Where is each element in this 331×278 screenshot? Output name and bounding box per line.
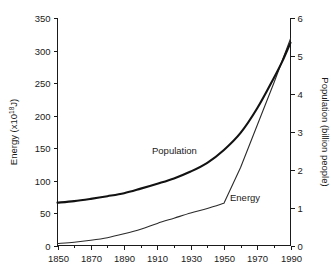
x-tick-label-group: 18501870189019101930195019701990 <box>48 253 302 264</box>
x-tick-label: 1850 <box>48 253 69 264</box>
x-tick-label: 1970 <box>247 253 268 264</box>
chart-plot-area: 050100150200250300350 0123456 1850187018… <box>0 0 331 278</box>
y-left-tick-group <box>54 19 58 247</box>
y-left-tick-label: 350 <box>35 13 51 24</box>
y-left-tick-label: 100 <box>35 176 51 187</box>
y-left-tick-label: 250 <box>35 78 51 89</box>
y-right-tick-label: 1 <box>298 203 303 214</box>
x-tick-label: 1910 <box>147 253 168 264</box>
y-right-axis-title: Population (billion people) <box>320 77 331 186</box>
y-left-axis-title: Energy (x1018J) <box>8 99 20 165</box>
energy-series-line <box>58 39 291 244</box>
y-left-tick-label: 300 <box>35 46 51 57</box>
y-right-axis-title-text: Population (billion people) <box>320 77 331 186</box>
y-right-tick-label: 3 <box>298 127 303 138</box>
y-right-tick-label: 4 <box>298 89 303 100</box>
x-tick-label: 1950 <box>214 253 235 264</box>
x-tick-label: 1890 <box>114 253 135 264</box>
y-left-tick-label-group: 050100150200250300350 <box>35 13 51 252</box>
y-right-tick-label: 2 <box>298 165 303 176</box>
y-left-tick-label: 50 <box>40 208 51 219</box>
y-left-tick-label: 150 <box>35 143 51 154</box>
y-left-tick-label: 0 <box>45 241 50 252</box>
y-left-tick-label: 200 <box>35 111 51 122</box>
x-tick-label: 1990 <box>281 253 302 264</box>
population-series-label: Population <box>152 145 197 156</box>
y-right-tick-label: 5 <box>298 51 303 62</box>
y-right-tick-label-group: 0123456 <box>298 13 303 252</box>
x-tick-label: 1870 <box>81 253 102 264</box>
chart-figure: 050100150200250300350 0123456 1850187018… <box>0 0 331 278</box>
energy-series-label: Energy <box>230 192 260 203</box>
population-series-line <box>58 43 291 203</box>
x-tick-label: 1930 <box>181 253 202 264</box>
y-left-axis-title-text: Energy (x1018J) <box>8 99 20 165</box>
y-right-tick-label: 0 <box>298 241 303 252</box>
y-right-tick-group <box>291 19 295 247</box>
y-right-tick-label: 6 <box>298 13 303 24</box>
